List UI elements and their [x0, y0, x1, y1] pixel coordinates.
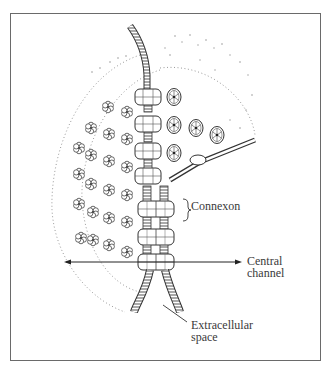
- central-channel-label: Central channel: [247, 255, 284, 279]
- diagram-illustration: [0, 0, 328, 370]
- connexon-stalks-lower: [143, 186, 168, 258]
- connexon-brace: [183, 199, 191, 221]
- connexon-top-views: [167, 89, 224, 162]
- connexon: [138, 201, 174, 217]
- connexon-particle-array: [74, 101, 133, 258]
- extracellular-space-label: Extracellular space: [191, 319, 253, 343]
- connexon-label: Connexon: [191, 200, 240, 212]
- upper-stipple-cloud: [91, 34, 253, 129]
- gap-junction-diagram: Connexon Central channel Extracellular s…: [0, 0, 328, 370]
